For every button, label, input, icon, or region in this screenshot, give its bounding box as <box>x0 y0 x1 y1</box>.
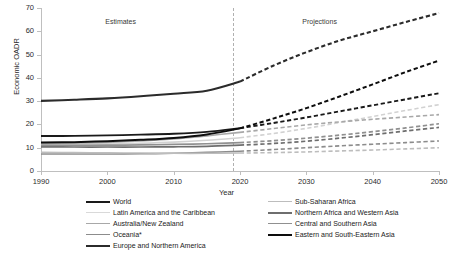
series-line-3 <box>240 141 439 151</box>
legend-item-label: Oceania* <box>113 230 142 239</box>
legend-swatch-icon <box>268 212 292 214</box>
series-line-4 <box>41 82 240 101</box>
legend-item-label: Eastern and South-Eastern Asia <box>295 230 395 239</box>
chart-legend: WorldLatin America and the CaribbeanAust… <box>0 196 453 256</box>
legend-item[interactable]: Eastern and South-Eastern Asia <box>268 229 398 240</box>
legend-item[interactable]: World <box>86 196 215 207</box>
legend-item[interactable]: Northern Africa and Western Asia <box>268 207 398 218</box>
legend-item[interactable]: Sub-Saharan Africa <box>268 196 398 207</box>
legend-item-label: Europe and Northern America <box>113 241 206 250</box>
series-line-0 <box>240 93 439 128</box>
legend-item-label: Sub-Saharan Africa <box>295 197 356 206</box>
legend-swatch-icon <box>268 234 292 236</box>
series-line-1 <box>240 105 439 138</box>
legend-item[interactable]: Latin America and the Caribbean <box>86 207 215 218</box>
series-line-6 <box>240 127 439 145</box>
series-line-8 <box>240 61 439 129</box>
legend-item-label: Latin America and the Caribbean <box>113 208 215 217</box>
legend-swatch-icon <box>86 223 110 224</box>
legend-column-right: Sub-Saharan AfricaNorthern Africa and We… <box>268 196 398 240</box>
legend-column-left: WorldLatin America and the CaribbeanAust… <box>86 196 215 251</box>
legend-item-label: Australia/New Zealand <box>113 219 183 228</box>
legend-item[interactable]: Oceania* <box>86 229 215 240</box>
legend-swatch-icon <box>86 212 110 213</box>
legend-item-label: Northern Africa and Western Asia <box>295 208 398 217</box>
legend-swatch-icon <box>86 245 110 247</box>
legend-item[interactable]: Central and Southern Asia <box>268 218 398 229</box>
legend-swatch-icon <box>86 201 110 203</box>
legend-swatch-icon <box>268 201 292 202</box>
legend-swatch-icon <box>86 234 110 235</box>
legend-item[interactable]: Europe and Northern America <box>86 240 215 251</box>
legend-item-label: World <box>113 197 131 206</box>
chart-root: 010203040506070 199020002010202020302040… <box>0 0 453 260</box>
series-line-5 <box>41 152 240 153</box>
legend-item-label: Central and Southern Asia <box>295 219 377 228</box>
legend-item[interactable]: Australia/New Zealand <box>86 218 215 229</box>
legend-swatch-icon <box>268 223 292 224</box>
